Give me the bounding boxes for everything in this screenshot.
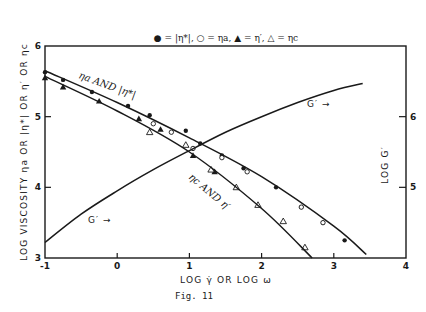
figure: ● = |η*|, ○ = ηa, ▲ = η′, △ = ηc -101234… (0, 0, 426, 312)
g-prime-upper-annotation: G′ → (307, 99, 330, 109)
g-prime-lower-annotation: G′ → (88, 215, 111, 225)
y2-tick-label: 6 (410, 112, 416, 122)
open-triangle-marker (280, 218, 286, 224)
y-tick-label: 6 (35, 41, 41, 51)
x-axis-label: LOG γ̇ OR LOG ω (180, 275, 272, 285)
y-tick-label: 3 (35, 253, 41, 263)
lower-curve-annotation: ηc AND η′ (187, 171, 233, 212)
x-tick-label: 2 (258, 261, 264, 271)
filled-circle-marker (342, 238, 346, 242)
y-left-axis-label: LOG VISCOSITY ηa OR |η*| OR η′ OR ηc (19, 43, 29, 261)
y-tick-label: 4 (35, 182, 41, 192)
y-right-axis-label: LOG G′ (380, 146, 390, 184)
series-line (45, 76, 312, 258)
x-tick-label: 0 (114, 261, 120, 271)
filled-circle-marker (184, 129, 188, 133)
y2-tick-label: 5 (410, 182, 416, 192)
x-tick-label: 4 (403, 261, 409, 271)
filled-triangle-marker (157, 126, 163, 132)
x-tick-label: 1 (186, 261, 192, 271)
figure-caption: Fig. 11 (175, 291, 213, 301)
legend: ● = |η*|, ○ = ηa, ▲ = η′, △ = ηc (154, 33, 298, 44)
x-tick-label: -1 (40, 261, 50, 271)
upper-curve-annotation: ηa AND |η*| (77, 70, 138, 102)
open-circle-marker (321, 220, 325, 224)
y-tick-label: 5 (35, 112, 41, 122)
open-circle-marker (299, 205, 303, 209)
open-triangle-marker (183, 142, 189, 148)
open-circle-marker (151, 122, 155, 126)
open-circle-marker (169, 130, 173, 134)
x-tick-label: 3 (331, 261, 337, 271)
open-circle-marker (245, 170, 249, 174)
